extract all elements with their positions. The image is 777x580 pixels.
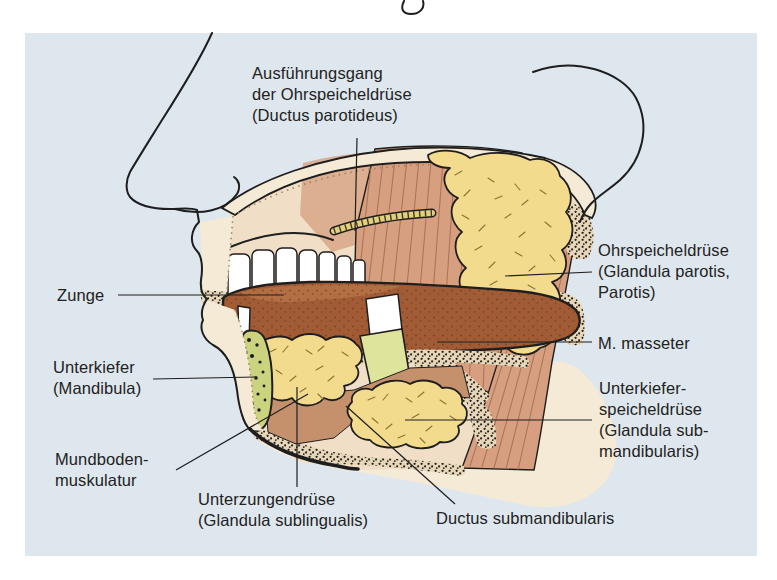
label-unterkieferspeicheldruese: Unterkiefer- speicheldrüse (Glandula sub… [599, 378, 709, 462]
label-zunge: Zunge [57, 285, 104, 306]
submandibular-gland-shape [348, 381, 467, 449]
label-ductus-parotideus: Ausführungsgang der Ohrspeicheldrüse (Du… [252, 63, 412, 126]
label-unterkiefer: Unterkiefer (Mandibula) [53, 357, 141, 399]
figure-page: Ausführungsgang der Ohrspeicheldrüse (Du… [0, 0, 777, 580]
top-squiggle [402, 1, 423, 14]
label-ohrspeicheldruese: Ohrspeicheldrüse (Glandula parotis, Paro… [598, 240, 730, 303]
label-unterzungendruese: Unterzungendrüse (Glandula sublingualis) [198, 489, 368, 531]
label-ductus-submandibularis: Ductus submandibularis [436, 508, 614, 529]
label-mundbodenmuskulatur: Mundboden- muskulatur [55, 449, 149, 491]
label-masseter: M. masseter [598, 333, 690, 354]
